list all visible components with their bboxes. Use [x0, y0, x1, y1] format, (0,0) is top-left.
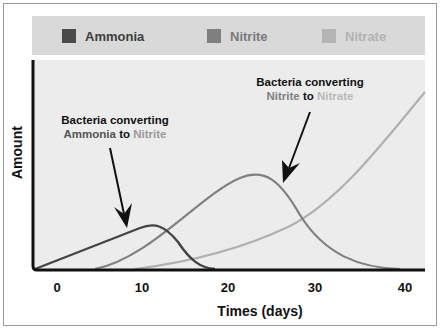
annotation-line1: Bacteria converting	[55, 113, 175, 127]
annotation-nitrite-to-nitrate: Bacteria converting Nitrite to Nitrate	[250, 75, 370, 103]
annotation-line2: Ammonia to Nitrite	[55, 127, 175, 141]
x-tick: 30	[300, 280, 330, 295]
x-tick: 0	[42, 280, 72, 295]
annotation-line2: Nitrite to Nitrate	[250, 89, 370, 103]
x-tick: 20	[213, 280, 243, 295]
nitrite-line	[95, 175, 400, 269]
y-axis-label: Amount	[9, 133, 25, 179]
ammonia-line	[35, 225, 215, 269]
annotation-line1: Bacteria converting	[250, 75, 370, 89]
annotation-ammonia-to-nitrite: Bacteria converting Ammonia to Nitrite	[55, 113, 175, 141]
x-axis-label: Times (days)	[180, 303, 340, 319]
x-tick: 40	[390, 280, 420, 295]
x-tick: 10	[127, 280, 157, 295]
